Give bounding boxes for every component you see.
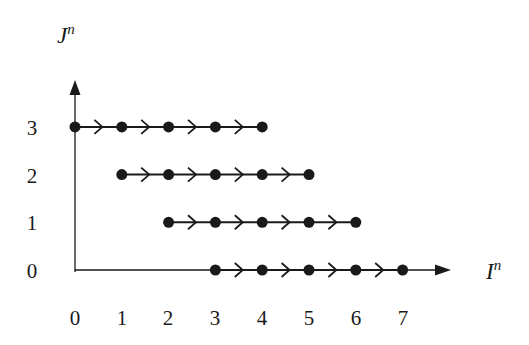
- y-tick-label: 3: [27, 116, 38, 140]
- lattice-diagram: Jn In 0 1 2 3 4 5 6 7 0 1 2 3: [0, 0, 529, 345]
- y-tick-label: 1: [27, 211, 38, 235]
- x-tick-label: 0: [70, 306, 81, 330]
- lattice-point: [163, 169, 174, 180]
- lattice-point: [70, 121, 81, 132]
- lattice-row-j1: [163, 215, 361, 229]
- lattice-point: [210, 169, 221, 180]
- x-tick-label: 7: [398, 306, 409, 330]
- y-axis-arrow-icon: [70, 80, 81, 95]
- lattice-point: [257, 169, 268, 180]
- lattice-point: [304, 265, 315, 276]
- x-axis-arrow-icon: [435, 265, 451, 276]
- x-tick-label: 4: [257, 306, 268, 330]
- lattice-point: [257, 265, 268, 276]
- x-tick-labels: 0 1 2 3 4 5 6 7: [70, 306, 409, 330]
- x-axis-title: In: [485, 257, 501, 284]
- x-tick-label: 1: [117, 306, 128, 330]
- x-tick-label: 2: [163, 306, 174, 330]
- y-tick-labels: 0 1 2 3: [27, 116, 38, 283]
- y-tick-label: 2: [27, 164, 38, 188]
- y-axis-title: Jn: [57, 21, 75, 48]
- lattice-point: [350, 265, 361, 276]
- lattice-point: [163, 217, 174, 228]
- lattice-point: [210, 265, 221, 276]
- lattice-point: [304, 217, 315, 228]
- diagram-canvas: Jn In 0 1 2 3 4 5 6 7 0 1 2 3: [0, 0, 529, 345]
- x-tick-label: 5: [304, 306, 315, 330]
- lattice-point: [257, 217, 268, 228]
- lattice-row-j2: [116, 168, 314, 182]
- x-tick-label: 3: [210, 306, 221, 330]
- lattice-point: [210, 121, 221, 132]
- lattice-row-j0: [210, 263, 408, 277]
- y-tick-label: 0: [27, 259, 38, 283]
- lattice-point: [163, 121, 174, 132]
- lattice-row-j3: [70, 120, 268, 134]
- lattice-rows: [70, 120, 409, 277]
- x-tick-label: 6: [351, 306, 362, 330]
- lattice-point: [304, 169, 315, 180]
- lattice-point: [116, 121, 127, 132]
- lattice-point: [116, 169, 127, 180]
- lattice-point: [397, 265, 408, 276]
- lattice-point: [350, 217, 361, 228]
- lattice-point: [210, 217, 221, 228]
- lattice-point: [257, 121, 268, 132]
